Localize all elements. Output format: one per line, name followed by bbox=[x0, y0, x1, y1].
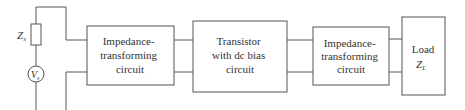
zs-label: Zs bbox=[17, 29, 26, 43]
amplifier-block-diagram: Zs Vs Impedance- transforming circuit Tr… bbox=[0, 0, 465, 110]
block-label-line: Impedance- bbox=[103, 35, 155, 47]
block-label-line: circuit bbox=[116, 63, 144, 75]
block-label-line: transforming bbox=[100, 49, 157, 61]
source-impedance: Zs bbox=[17, 24, 41, 45]
output-matching-block: Impedance- transforming circuit bbox=[313, 27, 389, 85]
source-wiring bbox=[36, 7, 87, 110]
block-label-line: circuit bbox=[337, 63, 365, 75]
block-label-line: transforming bbox=[321, 50, 378, 62]
load-label: Load bbox=[412, 43, 435, 55]
source-return-wire bbox=[66, 72, 87, 110]
block-label-line: with dc bias bbox=[212, 49, 265, 61]
source-top-wire bbox=[36, 7, 87, 40]
load-block: Load ZL bbox=[402, 17, 445, 95]
block-label-line: circuit bbox=[226, 63, 254, 75]
block-label-line: Impedance- bbox=[324, 37, 376, 49]
transistor-block: Transistor with dc bias circuit bbox=[193, 21, 287, 92]
resistor-icon bbox=[31, 24, 41, 45]
voltage-source: Vs bbox=[28, 66, 44, 82]
block-label-line: Transistor bbox=[217, 35, 262, 47]
input-matching-block: Impedance- transforming circuit bbox=[87, 26, 174, 85]
